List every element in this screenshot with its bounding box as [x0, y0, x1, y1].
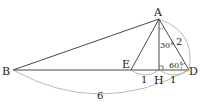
- label-HD: 1: [170, 74, 176, 85]
- label-E: E: [122, 58, 130, 71]
- segment-AB: [13, 19, 159, 70]
- label-H: H: [154, 74, 164, 87]
- label-BD: 6: [97, 90, 103, 101]
- label-EH: 1: [141, 74, 147, 85]
- geometry-diagram: A B E H D 1 1 2 6 30° 60°: [0, 0, 202, 105]
- label-A: A: [153, 6, 163, 19]
- label-angle-A: 30°: [160, 41, 174, 50]
- segment-AE: [131, 19, 159, 70]
- label-D: D: [189, 65, 198, 78]
- label-angle-D: 60°: [169, 61, 183, 70]
- right-angle-mark: [159, 66, 163, 70]
- label-AD: 2: [176, 36, 182, 47]
- angle-arc-A: [159, 28, 164, 29]
- label-B: B: [2, 65, 10, 78]
